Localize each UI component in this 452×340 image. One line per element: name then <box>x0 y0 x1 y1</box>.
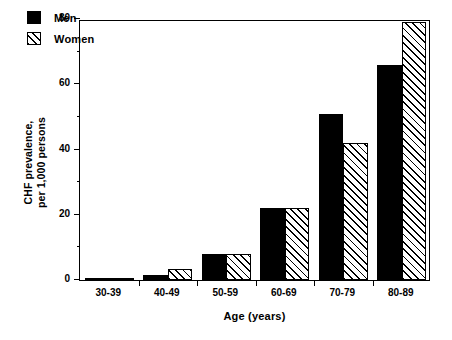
bar-men-70-79 <box>319 114 344 280</box>
y-tick-minor <box>77 246 81 247</box>
chart-figure: CHF prevalence, per 1,000 persons 020406… <box>0 0 452 340</box>
y-tick-label: 20 <box>59 208 70 219</box>
bar-men-80-89 <box>377 65 402 280</box>
y-axis-title-line2: per 1,000 persons <box>34 63 47 263</box>
x-tick-label: 80-89 <box>388 287 414 298</box>
x-tick <box>314 280 315 286</box>
x-tick <box>373 280 374 286</box>
y-axis-title: CHF prevalence, per 1,000 persons <box>22 63 47 263</box>
y-tick-major: 40 <box>74 149 80 150</box>
legend-label-men: Men <box>54 12 77 24</box>
x-tick-label: 60-69 <box>271 287 297 298</box>
y-tick-major: 20 <box>74 214 80 215</box>
legend-item-men: Men <box>27 7 95 28</box>
x-tick <box>139 280 140 286</box>
y-tick-label: 0 <box>64 273 70 284</box>
bar-women-30-39 <box>109 278 134 280</box>
bar-men-60-69 <box>260 208 285 280</box>
x-tick <box>256 280 257 286</box>
x-tick <box>197 280 198 286</box>
legend-label-women: Women <box>54 33 95 45</box>
bar-men-40-49 <box>143 275 168 280</box>
x-tick-label: 30-39 <box>95 287 121 298</box>
bar-men-50-59 <box>202 254 227 280</box>
y-tick-label: 60 <box>59 77 70 88</box>
bar-women-70-79 <box>343 143 368 280</box>
y-tick-major: 0 <box>74 279 80 280</box>
y-axis-title-line1: CHF prevalence, <box>22 63 35 263</box>
x-tick-label: 40-49 <box>154 287 180 298</box>
bar-women-50-59 <box>226 254 251 280</box>
legend-item-women: Women <box>27 28 95 49</box>
y-tick-major: 60 <box>74 83 80 84</box>
plot-area: 020406080 <box>79 20 430 281</box>
bar-women-80-89 <box>402 22 427 280</box>
bar-men-30-39 <box>85 278 110 280</box>
legend-swatch-women-icon <box>27 32 41 45</box>
y-tick-minor <box>77 116 81 117</box>
y-tick-minor <box>77 181 81 182</box>
legend-swatch-men-icon <box>27 11 41 24</box>
x-axis-title: Age (years) <box>79 310 430 322</box>
y-tick-label: 40 <box>59 143 70 154</box>
chart-legend: Men Women <box>27 7 95 49</box>
x-tick-label: 70-79 <box>329 287 355 298</box>
bar-women-60-69 <box>285 208 310 280</box>
x-tick-label: 50-59 <box>212 287 238 298</box>
y-tick-minor <box>77 51 81 52</box>
bar-women-40-49 <box>168 269 193 280</box>
